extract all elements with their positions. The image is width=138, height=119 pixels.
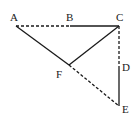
label-b: B xyxy=(66,11,73,23)
label-f: F xyxy=(56,68,62,80)
segment-fc xyxy=(69,26,119,65)
label-e: E xyxy=(122,103,129,115)
label-c: C xyxy=(116,11,123,23)
segment-fe xyxy=(69,65,119,106)
label-a: A xyxy=(10,11,18,23)
segment-af xyxy=(16,26,69,65)
geometry-diagram: A B C D E F xyxy=(0,0,138,119)
label-d: D xyxy=(122,61,130,73)
